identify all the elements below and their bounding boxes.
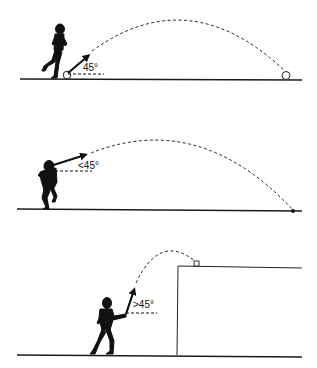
trajectory: [136, 251, 196, 283]
shot-landing: [291, 209, 295, 213]
trajectory: [92, 20, 286, 72]
ground-line: [17, 355, 302, 357]
player-figure: [90, 298, 126, 355]
platform-wall: [177, 266, 302, 355]
angle-label: <45°: [78, 160, 99, 171]
ball-landing: [282, 72, 290, 80]
panel-kick-45: 45°: [20, 20, 302, 80]
projectile-angle-diagram: 45° <45° >45°: [0, 0, 317, 368]
ball-on-platform: [194, 261, 199, 266]
ground-line: [20, 79, 302, 80]
angle-label: 45°: [83, 62, 98, 73]
ground-line: [17, 209, 302, 211]
trajectory: [91, 140, 293, 210]
panel-throw-gt45: >45°: [17, 251, 302, 357]
angle-label: >45°: [133, 299, 154, 310]
player-figure: [42, 24, 67, 78]
panel-throw-lt45: <45°: [17, 140, 302, 213]
